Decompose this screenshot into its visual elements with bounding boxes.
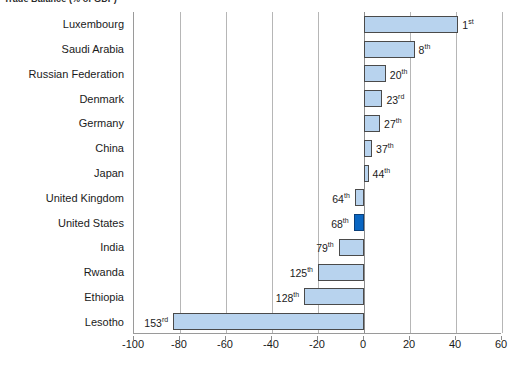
category-label: Saudi Arabia: [62, 44, 124, 55]
bar-rank-label: 44th: [373, 167, 391, 179]
category-label: Japan: [94, 168, 124, 179]
bar: [304, 288, 364, 305]
bar: [364, 65, 386, 82]
bar-rank-label: 64th: [332, 192, 350, 204]
x-tick-label: -20: [309, 338, 325, 350]
bar-rank-label: 153rd: [144, 316, 168, 328]
x-axis: -100-80-60-40-200204060: [133, 336, 501, 356]
gridline: [272, 12, 273, 333]
gridline: [180, 12, 181, 333]
chart-title: Trade Balance (% of GDP): [4, 0, 117, 4]
bar-rank-label: 68th: [331, 217, 349, 229]
bar: [364, 140, 372, 157]
category-label: Lesotho: [85, 316, 124, 327]
category-label: Germany: [79, 118, 124, 129]
bar: [339, 239, 364, 256]
bar-chart: Trade Balance (% of GDP) LuxembourgSaudi…: [0, 0, 517, 369]
bar: [364, 115, 380, 132]
x-tick-label: 60: [495, 338, 507, 350]
bar-rank-label: 20th: [390, 68, 408, 80]
x-tick-label: -40: [263, 338, 279, 350]
bar-rank-label: 27th: [384, 117, 402, 129]
gridline: [226, 12, 227, 333]
gridline: [502, 12, 503, 333]
category-label: Denmark: [79, 93, 124, 104]
bar-rank-label: 23rd: [386, 93, 404, 105]
category-label: Rwanda: [84, 267, 124, 278]
bar-rank-label: 79th: [316, 241, 334, 253]
bar: [364, 16, 458, 33]
category-axis: LuxembourgSaudi ArabiaRussian Federation…: [0, 12, 128, 334]
gridline: [456, 12, 457, 333]
category-label: China: [95, 143, 124, 154]
category-label: Russian Federation: [29, 68, 124, 79]
x-tick-label: 20: [403, 338, 415, 350]
bar: [364, 165, 369, 182]
bar: [173, 313, 364, 330]
bar-rank-label: 125th: [290, 266, 313, 278]
bar: [364, 41, 415, 58]
bar: [364, 90, 382, 107]
bar: [355, 189, 364, 206]
category-label: United Kingdom: [46, 192, 124, 203]
bar: [318, 264, 364, 281]
category-label: United States: [58, 217, 124, 228]
x-tick-label: -60: [217, 338, 233, 350]
category-label: Luxembourg: [63, 19, 124, 30]
gridline: [410, 12, 411, 333]
category-label: India: [100, 242, 124, 253]
x-tick-label: -100: [122, 338, 144, 350]
gridline: [318, 12, 319, 333]
x-tick-label: 40: [449, 338, 461, 350]
bar-rank-label: 128th: [276, 291, 299, 303]
category-label: Ethiopia: [84, 291, 124, 302]
x-tick-label: 0: [360, 338, 366, 350]
bar-rank-label: 37th: [376, 142, 394, 154]
bar-rank-label: 8th: [419, 43, 431, 55]
bar: [354, 214, 364, 231]
plot-area: 1st8th20th23rd27th37th44th64th68th79th12…: [133, 12, 501, 334]
bar-rank-label: 1st: [462, 18, 473, 30]
x-tick-label: -80: [171, 338, 187, 350]
